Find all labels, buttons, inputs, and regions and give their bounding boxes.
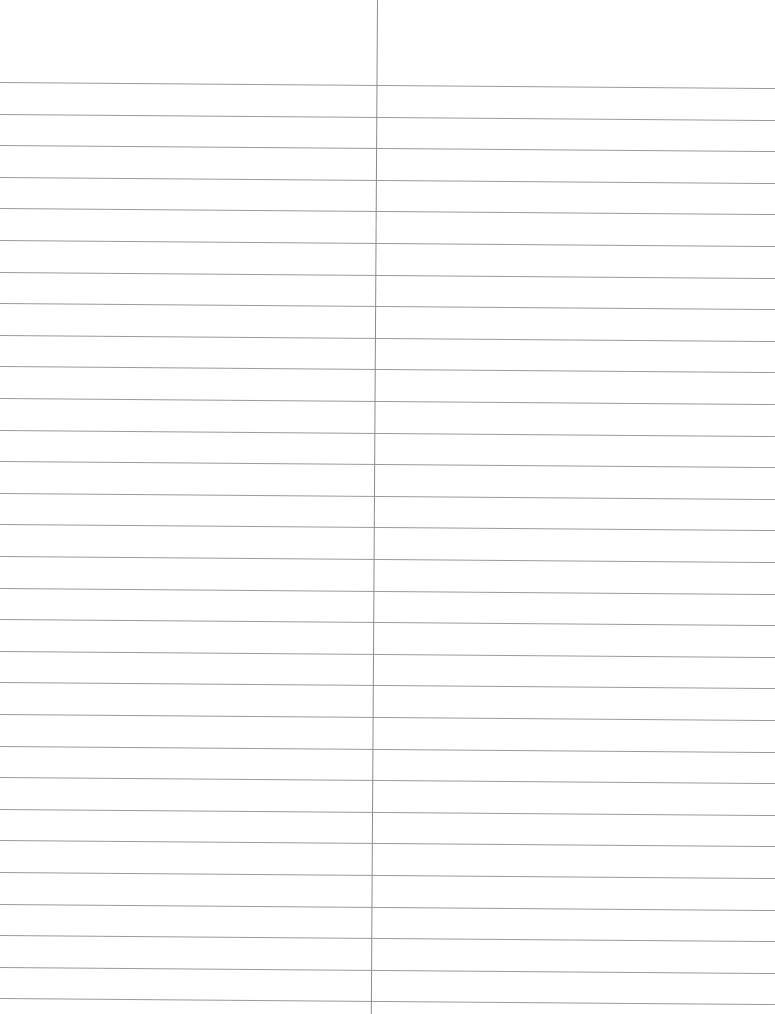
right-column xyxy=(377,0,775,1014)
left-column xyxy=(0,0,376,1014)
ruled-page xyxy=(0,0,775,1014)
